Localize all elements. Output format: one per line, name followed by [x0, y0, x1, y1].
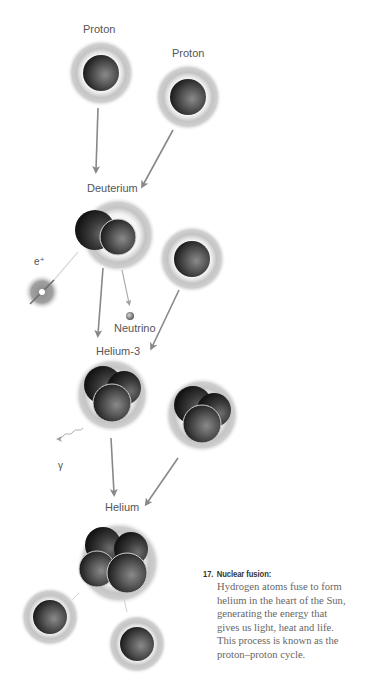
proton-1-label: Proton	[83, 23, 115, 35]
positron-label: e⁺	[34, 256, 45, 267]
gamma-ray	[59, 428, 83, 439]
caption-line: This process is known as the	[217, 634, 373, 648]
arrow-proton3-to-helium3	[152, 290, 179, 347]
arrow-to-neutrino	[122, 270, 129, 303]
neutrino-particle	[126, 312, 134, 320]
caption-heading: Nuclear fusion:	[217, 569, 271, 579]
caption-title: 17.Nuclear fusion:	[203, 569, 348, 579]
helium3-particle-1	[74, 357, 150, 433]
helium3-label: Helium-3	[96, 345, 140, 357]
diagram-stage: Proton Proton Deuterium e⁺ Neutrino Heli…	[0, 0, 374, 699]
arrow-helium3-1-to-helium	[111, 438, 114, 493]
proton-1-particle	[67, 39, 135, 107]
caption-line: gives us light, heat and life.	[217, 621, 373, 635]
proton-2-particle	[154, 63, 222, 131]
caption-line: helium in the heart of the Sun,	[217, 594, 373, 608]
helium-particle	[77, 521, 161, 605]
positron-particle	[24, 274, 60, 310]
arrow-proton2-to-deuterium	[143, 130, 173, 185]
caption-number: 17.	[203, 569, 213, 579]
proton-2-label: Proton	[172, 47, 204, 59]
released-proton-2	[107, 614, 167, 674]
proton-3-particle	[158, 225, 226, 293]
arrow-proton1-to-deuterium	[96, 108, 98, 170]
caption-line: generating the energy that	[217, 607, 373, 621]
caption-line: proton–proton cycle.	[217, 648, 373, 662]
caption-body: Hydrogen atoms fuse to form helium in th…	[217, 580, 373, 662]
helium-label: Helium	[105, 501, 139, 513]
caption-line: Hydrogen atoms fuse to form	[217, 580, 373, 594]
arrow-deuterium-to-helium3	[98, 268, 103, 334]
neutrino-label: Neutrino	[114, 322, 156, 334]
released-proton-1	[20, 587, 80, 647]
helium3-particle-2	[164, 377, 240, 453]
deuterium-particle	[75, 197, 156, 273]
figure-caption: 17.Nuclear fusion: Hydrogen atoms fuse t…	[203, 569, 373, 662]
gamma-label: γ	[58, 460, 63, 471]
arrow-helium3-2-to-helium	[147, 458, 178, 503]
deuterium-label: Deuterium	[87, 182, 138, 194]
